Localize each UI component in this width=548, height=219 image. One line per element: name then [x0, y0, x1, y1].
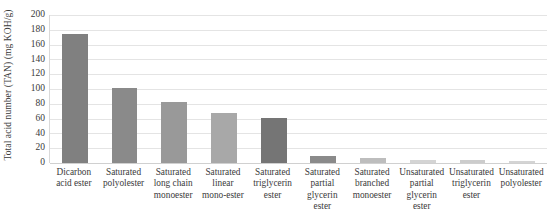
bar-5 [310, 156, 336, 163]
y-axis-tick-120: 120 [31, 69, 45, 79]
y-axis-tick-80: 80 [36, 99, 46, 109]
x-axis-tick-2: Saturated long chain monoester [149, 167, 197, 201]
x-axis-tick-labels: Dicarbon acid esterSaturated polyolester… [49, 167, 546, 219]
bar-0 [62, 34, 88, 164]
bar-2 [161, 102, 187, 163]
y-axis-tick-40: 40 [36, 129, 46, 139]
bar-chart: Total acid number (TAN) (mg KOH/g) 02040… [0, 0, 548, 219]
x-axis-tick-1: Saturated polyolester [100, 167, 148, 190]
bar-8 [460, 160, 486, 163]
x-axis-tick-7: Unsaturated partial glycerin ester [398, 167, 446, 213]
x-axis-tick-6: Saturated branched monoester [348, 167, 396, 201]
x-axis-tick-9: Unsaturated polyolester [497, 167, 545, 190]
y-axis-tick-60: 60 [36, 114, 46, 124]
y-axis-tick-20: 20 [36, 143, 46, 153]
bar-6 [360, 158, 386, 163]
plot-area [49, 15, 547, 163]
x-axis-tick-4: Saturated triglycerin ester [249, 167, 297, 201]
y-axis-tick-140: 140 [31, 55, 45, 65]
x-axis-tick-0: Dicarbon acid ester [50, 167, 98, 190]
gridline-0 [50, 163, 547, 164]
bar-4 [261, 118, 287, 163]
y-axis-tick-200: 200 [31, 10, 45, 20]
y-axis-tick-160: 160 [31, 40, 45, 50]
y-axis-tick-0: 0 [40, 158, 45, 168]
y-axis-tick-labels: 020406080100120140160180200 [16, 0, 48, 170]
bar-3 [211, 113, 237, 163]
y-axis-title-label: Total acid number (TAN) (mg KOH/g) [3, 9, 13, 160]
y-axis-tick-180: 180 [31, 25, 45, 35]
bar-9 [509, 161, 535, 163]
x-axis-tick-8: Unsaturated triglycerin ester [448, 167, 496, 201]
y-axis-title: Total acid number (TAN) (mg KOH/g) [0, 0, 16, 170]
y-axis-tick-100: 100 [31, 84, 45, 94]
x-axis-tick-5: Saturated partial glycerin ester [299, 167, 347, 213]
bar-7 [410, 160, 436, 163]
x-axis-tick-3: Saturated linear mono-ester [199, 167, 247, 201]
bar-1 [112, 88, 138, 163]
bars-group [50, 15, 547, 163]
